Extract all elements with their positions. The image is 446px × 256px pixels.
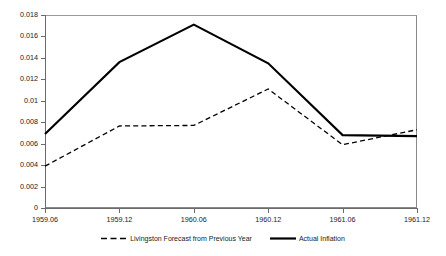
x-tick-mark: [417, 209, 418, 213]
y-tick-label: 0.012: [0, 75, 38, 83]
x-tick-mark: [194, 209, 195, 213]
legend-label-actual-inflation: Actual Inflation: [299, 234, 345, 243]
legend-item-livingston-forecast: Livingston Forecast from Previous Year: [101, 234, 252, 243]
y-tick-mark: [41, 144, 45, 145]
y-tick-label: 0: [0, 204, 38, 212]
x-tick-label: 1959.06: [15, 215, 75, 224]
y-tick-label: 0.004: [0, 161, 38, 169]
y-tick-label: 0.008: [0, 118, 38, 126]
y-tick-mark: [41, 122, 45, 123]
y-tick-label: 0.018: [0, 11, 38, 19]
x-tick-label: 1960.06: [164, 215, 224, 224]
legend-swatch-dashed-icon: [101, 234, 127, 243]
y-tick-mark: [41, 36, 45, 37]
y-tick-mark: [41, 165, 45, 166]
chart-legend: Livingston Forecast from Previous Year A…: [0, 234, 446, 243]
legend-label-livingston-forecast: Livingston Forecast from Previous Year: [130, 234, 252, 243]
x-tick-mark: [343, 209, 344, 213]
y-tick-label: 0.016: [0, 32, 38, 40]
x-tick-label: 1961.12: [387, 215, 446, 224]
x-tick-mark: [119, 209, 120, 213]
y-tick-label: 0.002: [0, 183, 38, 191]
y-tick-label: 0.006: [0, 140, 38, 148]
x-tick-mark: [45, 209, 46, 213]
legend-swatch-solid-icon: [270, 234, 296, 243]
y-tick-mark: [41, 58, 45, 59]
y-tick-label: 0.01: [0, 97, 38, 105]
y-tick-mark: [41, 187, 45, 188]
inflation-forecast-chart: 00.0020.0040.0060.0080.010.0120.0140.016…: [0, 0, 446, 256]
x-axis-line: [45, 208, 418, 209]
x-tick-label: 1960.12: [238, 215, 298, 224]
x-tick-label: 1961.06: [313, 215, 373, 224]
legend-item-actual-inflation: Actual Inflation: [270, 234, 345, 243]
plot-area-frame: [45, 15, 417, 208]
y-tick-mark: [41, 15, 45, 16]
y-tick-mark: [41, 79, 45, 80]
y-tick-mark: [41, 101, 45, 102]
y-tick-label: 0.014: [0, 54, 38, 62]
x-tick-mark: [268, 209, 269, 213]
y-axis-line: [45, 15, 46, 209]
x-tick-label: 1959.12: [89, 215, 149, 224]
